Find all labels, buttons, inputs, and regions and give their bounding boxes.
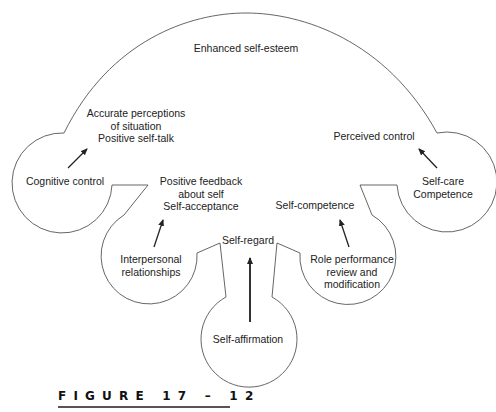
source-line: review and (310, 266, 393, 279)
source-interpersonal: Interpersonal relationships (120, 253, 181, 278)
figure-caption: FIGURE 17 – 12 (58, 389, 260, 403)
arrow-interpersonal (154, 220, 163, 247)
source-cognitive-control: Cognitive control (26, 175, 104, 188)
outcome-line: Positive feedback (160, 175, 242, 188)
source-line: Role performance (310, 253, 393, 266)
outcome-self-affirmation: Self-regard (222, 234, 274, 247)
source-line: Self-care (413, 175, 473, 188)
outcome-role-performance: Self-competence (276, 199, 355, 212)
diagram-outline (0, 0, 496, 412)
arrow-cognitive-control (68, 149, 87, 168)
outcome-line: about self (160, 188, 242, 201)
source-line: Competence (413, 188, 473, 201)
source-self-care: Self-care Competence (413, 175, 473, 200)
caption-underline (58, 406, 230, 408)
source-line: relationships (120, 266, 181, 279)
outline-path (12, 13, 496, 387)
outcome-line: of situation (87, 120, 186, 133)
arrow-role-performance (340, 220, 349, 247)
arrow-self-care (419, 149, 437, 168)
outcome-line: Self-acceptance (160, 200, 242, 213)
outcome-cognitive-control: Accurate perceptions of situation Positi… (87, 107, 186, 145)
source-line: modification (310, 278, 393, 291)
outcome-line: Positive self-talk (87, 132, 186, 145)
outcome-line: Accurate perceptions (87, 107, 186, 120)
center-label: Enhanced self-esteem (194, 42, 298, 55)
source-line: Interpersonal (120, 253, 181, 266)
source-role-performance: Role performance review and modification (310, 253, 393, 291)
source-self-affirmation: Self-affirmation (213, 333, 283, 346)
outcome-self-care: Perceived control (333, 130, 414, 143)
self-esteem-diagram: Enhanced self-esteem Accurate perception… (0, 0, 496, 412)
outcome-interpersonal: Positive feedback about self Self-accept… (160, 175, 242, 213)
